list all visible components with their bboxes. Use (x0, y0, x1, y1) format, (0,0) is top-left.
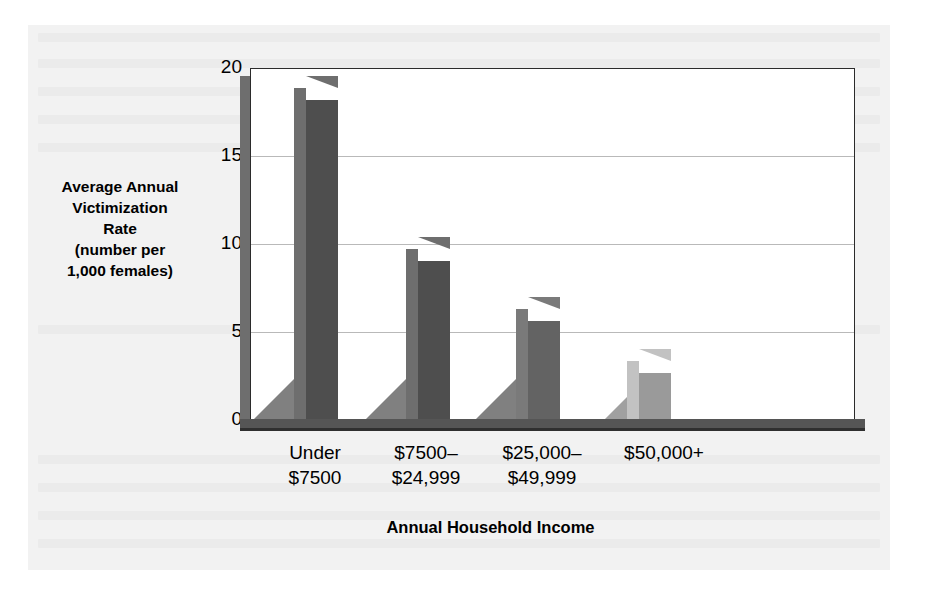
x-tick-line: $24,999 (362, 465, 490, 490)
x-tick-label-0: Under $7500 (251, 440, 379, 490)
y-axis-ticks: 20 15 10 5 0 (186, 68, 242, 420)
plot-area (250, 68, 855, 420)
bar-side-face (627, 361, 639, 419)
y-tick-20: 20 (196, 56, 242, 78)
gridline-15 (251, 156, 854, 157)
bar-side-face (406, 249, 418, 419)
x-tick-label-3: $50,000+ (595, 440, 733, 465)
x-axis-label-text: Annual Household Income (386, 518, 594, 536)
plot-left-wall (240, 76, 250, 428)
x-tick-line: $7500 (251, 465, 379, 490)
x-tick-line: $50,000+ (595, 440, 733, 465)
y-axis-label: Average Annual Victimization Rate (numbe… (30, 176, 210, 281)
bar-front-face (418, 261, 450, 419)
x-tick-line: $25,000– (473, 440, 611, 465)
y-axis-label-line: Rate (30, 218, 210, 239)
x-tick-line: Under (251, 440, 379, 465)
y-tick-5: 5 (196, 320, 242, 342)
y-tick-10: 10 (196, 232, 242, 254)
bar-top-face (294, 76, 338, 88)
y-tick-15: 15 (196, 144, 242, 166)
y-axis-label-line: (number per (30, 239, 210, 260)
bar-top-face (627, 349, 671, 361)
y-axis-label-line: Average Annual (30, 176, 210, 197)
bar-front-face (528, 321, 560, 419)
bar-front-face (306, 100, 338, 419)
x-tick-label-2: $25,000– $49,999 (473, 440, 611, 490)
bar-side-face (516, 309, 528, 419)
bar-top-face (516, 297, 560, 309)
bar-chart-figure: Average Annual Victimization Rate (numbe… (0, 0, 925, 592)
x-tick-line: $7500– (362, 440, 490, 465)
x-tick-line: $49,999 (473, 465, 611, 490)
gridline-10 (251, 244, 854, 245)
bar-front-face (639, 373, 671, 419)
y-axis-label-line: Victimization (30, 197, 210, 218)
y-tick-0: 0 (196, 408, 242, 430)
bar-top-face (406, 237, 450, 249)
bar-side-face (294, 88, 306, 419)
x-axis-label: Annual Household Income (0, 518, 925, 537)
y-axis-label-line: 1,000 females) (30, 260, 210, 281)
plot-floor-edge (240, 428, 865, 431)
x-tick-label-1: $7500– $24,999 (362, 440, 490, 490)
